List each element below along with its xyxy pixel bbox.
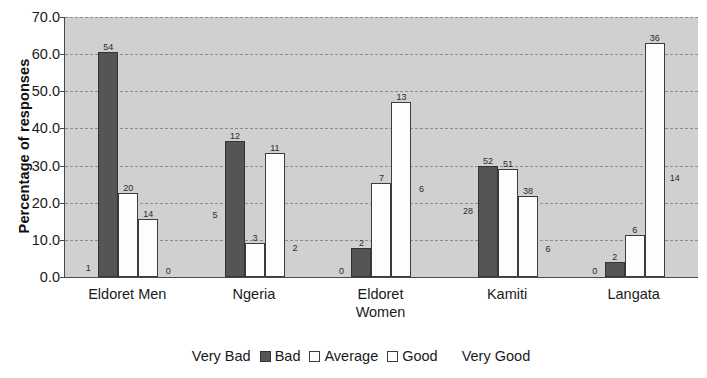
bar-langata-bad[interactable]: 2 xyxy=(605,262,625,277)
bar-slot: 0 xyxy=(158,17,178,277)
legend-item-label: Bad xyxy=(275,348,301,364)
bar-eldoret-women-average[interactable]: 7 xyxy=(371,183,391,277)
x-axis-label-ngeria: Ngeria xyxy=(191,285,318,337)
bar-ngeria-very-good[interactable]: 2 xyxy=(285,254,305,277)
bar-ngeria-bad[interactable]: 12 xyxy=(225,141,245,277)
x-axis-label-line: Langata xyxy=(607,286,659,302)
bar-value-label: 6 xyxy=(419,185,424,194)
legend-item-label: Good xyxy=(402,348,437,364)
bar-value-label: 2 xyxy=(292,244,297,253)
bar-kamiti-average[interactable]: 51 xyxy=(498,169,518,277)
bar-slot: 2 xyxy=(285,17,305,277)
x-axis-label-line: Eldoret xyxy=(358,286,404,302)
bar-slot: 11 xyxy=(265,17,285,277)
x-axis-label-line: Kamiti xyxy=(487,286,527,302)
bar-value-label: 28 xyxy=(463,207,473,216)
bar-group-kamiti: 285251386 xyxy=(445,17,572,277)
y-axis-tick-mark xyxy=(60,277,65,278)
bar-value-label: 14 xyxy=(143,210,153,219)
bar-groups: 1542014051231120271362852513860263614 xyxy=(65,17,698,277)
bar-eldoret-men-very-bad[interactable]: 1 xyxy=(78,274,98,277)
y-axis-tick-label: 20.0 xyxy=(8,195,60,211)
bar-group-eldoret-men: 15420140 xyxy=(65,17,192,277)
bar-slot: 28 xyxy=(458,17,478,277)
bar-value-label: 5 xyxy=(212,211,217,220)
bar-ngeria-very-bad[interactable]: 5 xyxy=(205,221,225,277)
bar-ngeria-average[interactable]: 3 xyxy=(245,243,265,277)
bar-value-label: 52 xyxy=(483,157,493,166)
plot-area: 1542014051231120271362852513860263614 xyxy=(64,17,698,278)
bar-eldoret-women-bad[interactable]: 2 xyxy=(351,248,371,277)
chart-legend: Very BadBadAverageGoodVery Good xyxy=(0,348,707,364)
bar-value-label: 38 xyxy=(523,187,533,196)
bar-slot: 38 xyxy=(518,17,538,277)
bar-value-label: 11 xyxy=(270,144,279,153)
bar-slot: 14 xyxy=(138,17,158,277)
bar-kamiti-very-bad[interactable]: 28 xyxy=(458,217,478,277)
x-axis-label-line: Women xyxy=(317,303,444,321)
legend-item-very-bad[interactable]: Very Bad xyxy=(177,348,251,364)
bar-slot: 2 xyxy=(605,17,625,277)
bar-group-bars: 0263614 xyxy=(571,17,698,277)
legend-item-average[interactable]: Average xyxy=(309,348,378,364)
y-axis-tick-label: 70.0 xyxy=(8,9,60,25)
legend-item-very-good[interactable]: Very Good xyxy=(447,348,531,364)
bar-eldoret-men-good[interactable]: 14 xyxy=(138,219,158,277)
legend-item-good[interactable]: Good xyxy=(387,348,437,364)
bar-group-ngeria: 5123112 xyxy=(192,17,319,277)
bar-value-label: 0 xyxy=(592,267,597,276)
bar-group-bars: 5123112 xyxy=(192,17,319,277)
bar-group-bars: 285251386 xyxy=(445,17,572,277)
bar-eldoret-women-good[interactable]: 13 xyxy=(391,102,411,277)
bar-langata-good[interactable]: 36 xyxy=(645,43,665,277)
bar-slot: 20 xyxy=(118,17,138,277)
bar-ngeria-good[interactable]: 11 xyxy=(265,153,285,277)
bar-value-label: 20 xyxy=(123,184,133,193)
legend-item-label: Very Good xyxy=(462,348,531,364)
x-axis-label-line: Ngeria xyxy=(233,286,276,302)
y-axis-tick-labels: 0.010.020.030.040.050.060.070.0 xyxy=(8,0,60,378)
bar-slot: 2 xyxy=(351,17,371,277)
bar-kamiti-bad[interactable]: 52 xyxy=(478,166,498,277)
bar-eldoret-men-average[interactable]: 20 xyxy=(118,193,138,277)
x-axis-category-labels: Eldoret MenNgeriaEldoretWomenKamitiLanga… xyxy=(64,285,697,337)
bar-slot: 0 xyxy=(585,17,605,277)
y-axis-tick-label: 10.0 xyxy=(8,232,60,248)
bar-langata-very-good[interactable]: 14 xyxy=(665,184,685,277)
bar-group-eldoret-women: 027136 xyxy=(318,17,445,277)
bar-slot: 6 xyxy=(538,17,558,277)
x-axis-label-eldoret-women: EldoretWomen xyxy=(317,285,444,337)
bar-value-label: 12 xyxy=(230,132,240,141)
bar-slot: 1 xyxy=(78,17,98,277)
bar-chart: Percentage of responses 0.010.020.030.04… xyxy=(0,0,707,378)
bar-value-label: 0 xyxy=(339,267,344,276)
legend-swatch-very-good-icon xyxy=(447,351,458,362)
x-axis-label-kamiti: Kamiti xyxy=(444,285,571,337)
bar-value-label: 13 xyxy=(396,93,406,102)
legend-swatch-very-bad-icon xyxy=(177,351,188,362)
bar-value-label: 7 xyxy=(379,174,384,183)
bar-value-label: 2 xyxy=(359,239,364,248)
x-axis-label-eldoret-men: Eldoret Men xyxy=(64,285,191,337)
bar-value-label: 1 xyxy=(86,264,91,273)
bar-value-label: 51 xyxy=(503,160,513,169)
bar-value-label: 14 xyxy=(670,174,680,183)
bar-kamiti-good[interactable]: 38 xyxy=(518,196,538,277)
bar-group-langata: 0263614 xyxy=(571,17,698,277)
x-axis-label-langata: Langata xyxy=(570,285,697,337)
x-axis-label-line: Eldoret Men xyxy=(88,286,166,302)
bar-slot: 3 xyxy=(245,17,265,277)
bar-eldoret-men-bad[interactable]: 54 xyxy=(98,52,118,277)
bar-kamiti-very-good[interactable]: 6 xyxy=(538,255,558,277)
bar-value-label: 6 xyxy=(546,245,551,254)
bar-group-bars: 027136 xyxy=(318,17,445,277)
y-axis-tick-label: 30.0 xyxy=(8,158,60,174)
y-axis-tick-label: 0.0 xyxy=(8,269,60,285)
bar-slot: 6 xyxy=(411,17,431,277)
y-axis-tick-label: 60.0 xyxy=(8,46,60,62)
legend-item-bad[interactable]: Bad xyxy=(260,348,301,364)
bar-slot: 14 xyxy=(665,17,685,277)
bar-langata-average[interactable]: 6 xyxy=(625,235,645,277)
bar-eldoret-women-very-good[interactable]: 6 xyxy=(411,195,431,277)
bar-slot: 13 xyxy=(391,17,411,277)
